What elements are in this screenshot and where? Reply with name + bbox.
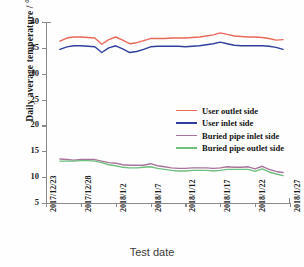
x-tick bbox=[185, 203, 186, 207]
y-tick-label: 20 bbox=[31, 119, 40, 129]
legend-item: User outlet side bbox=[176, 105, 284, 116]
series-line bbox=[60, 33, 283, 44]
series-line bbox=[60, 42, 283, 52]
y-tick-label: 15 bbox=[31, 145, 40, 155]
chart-figure: Daily average temperature / °C 510152025… bbox=[0, 0, 304, 267]
legend-label: User inlet side bbox=[202, 118, 253, 128]
x-tick-label: 2018/1/27 bbox=[293, 180, 302, 212]
x-axis-title: Test date bbox=[0, 246, 304, 258]
y-tick-label: 25 bbox=[31, 94, 40, 104]
legend-color-swatch bbox=[176, 122, 197, 124]
x-tick bbox=[81, 203, 82, 207]
x-tick bbox=[151, 203, 152, 207]
legend-item: Buried pipe outlet side bbox=[176, 143, 284, 154]
legend-label: User outlet side bbox=[202, 106, 258, 116]
y-tick-label: 10 bbox=[31, 171, 40, 181]
y-tick-label: 30 bbox=[31, 68, 40, 78]
legend-label: Buried pipe inlet side bbox=[202, 131, 279, 141]
x-tick bbox=[290, 203, 291, 207]
x-tick bbox=[46, 203, 47, 207]
x-axis-line bbox=[46, 203, 290, 204]
legend-item: Buried pipe inlet side bbox=[176, 130, 284, 141]
x-tick bbox=[116, 203, 117, 207]
legend-color-swatch bbox=[176, 147, 197, 149]
x-tick bbox=[255, 203, 256, 207]
legend-item: User inlet side bbox=[176, 118, 284, 129]
y-tick-label: 5 bbox=[35, 197, 39, 207]
plot-area: 510152025303540 2017/12/232017/12/282018… bbox=[46, 22, 290, 203]
legend-color-swatch bbox=[176, 135, 197, 137]
legend-color-swatch bbox=[176, 110, 197, 112]
chart-legend: User outlet sideUser inlet sideBuried pi… bbox=[176, 105, 284, 155]
legend-label: Buried pipe outlet side bbox=[202, 143, 284, 153]
y-tick-label: 35 bbox=[31, 42, 40, 52]
x-tick bbox=[220, 203, 221, 207]
y-tick-label: 40 bbox=[31, 16, 40, 26]
